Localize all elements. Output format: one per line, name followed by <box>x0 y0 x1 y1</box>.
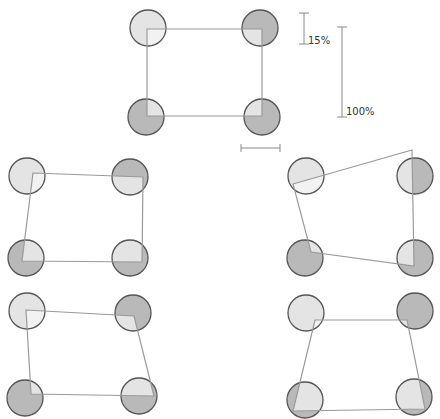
panel-bottom-left <box>7 293 157 416</box>
scale-bar-horizontal <box>241 144 280 152</box>
panel-middle-left <box>8 158 148 276</box>
scale-bar-100-percent <box>337 27 347 117</box>
quad-outline <box>147 29 262 116</box>
scale-label-15-percent: 15% <box>308 35 330 46</box>
diagram-canvas <box>0 0 440 419</box>
scale-label-100-percent: 100% <box>346 106 375 117</box>
panel-bottom-right <box>287 293 433 418</box>
panels-group <box>7 10 433 418</box>
panel-reference <box>128 10 280 135</box>
panel-middle-right <box>287 150 433 276</box>
